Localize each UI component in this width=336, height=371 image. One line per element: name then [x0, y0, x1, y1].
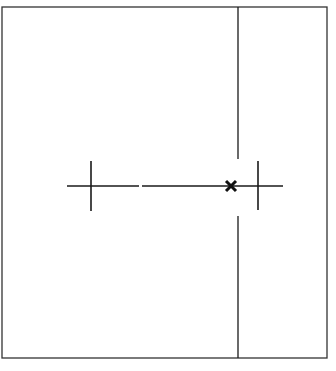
diagram-frame	[2, 7, 327, 358]
diagram-canvas	[0, 0, 336, 371]
